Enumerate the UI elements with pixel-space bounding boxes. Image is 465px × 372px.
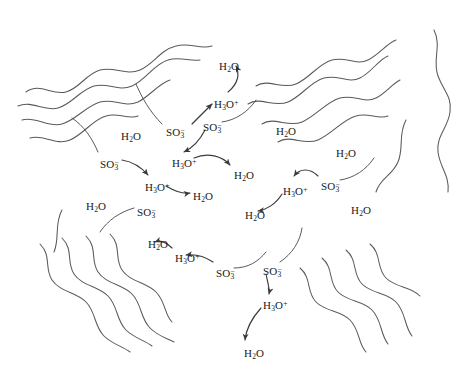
- label-h3o-6: H3O+: [263, 300, 288, 313]
- label-so3-3: SO3−: [100, 159, 119, 172]
- label-h2o-8: H2O: [86, 201, 106, 213]
- label-h2o-9: H2O: [351, 205, 371, 217]
- label-h2o-5: H2O: [234, 170, 254, 182]
- stem-so3-2: [136, 84, 162, 124]
- label-h2o-2: H2O: [121, 131, 141, 143]
- arrow-3: [122, 160, 148, 175]
- chain-right-edge: [434, 30, 450, 192]
- chain-br-1: [300, 268, 366, 352]
- chain-tr-1: [256, 40, 396, 86]
- arrow-6: [294, 170, 318, 176]
- label-h3o-1: H3O+: [214, 99, 239, 112]
- diagram-canvas: H2OH3O+SO3−SO3−H2OH2OH2OSO3−H3O+H2OH3O+H…: [0, 0, 465, 372]
- label-h2o-7: H2O: [245, 210, 265, 222]
- label-h2o-11: H2O: [244, 348, 264, 360]
- chain-br-2: [322, 258, 388, 344]
- polymer-backbone-chains: [18, 30, 450, 352]
- label-h2o-10: H2O: [148, 239, 168, 251]
- diagram-vector-layer: [0, 0, 465, 372]
- stem-so3-7: [280, 228, 302, 262]
- chain-right-lower: [376, 120, 406, 192]
- label-h3o-5: H3O+: [175, 253, 200, 266]
- chain-bl-2: [62, 238, 152, 346]
- label-h3o-4: H3O+: [283, 186, 308, 199]
- label-h3o-3: H3O+: [145, 182, 170, 195]
- arrow-5: [194, 155, 230, 165]
- label-so3-2: SO3−: [166, 127, 185, 140]
- label-h2o-4: H2O: [336, 148, 356, 160]
- chain-tl-3: [22, 80, 170, 125]
- chain-tr-2: [248, 56, 388, 104]
- label-so3-1: SO3−: [203, 122, 222, 135]
- label-h2o-1: H2O: [219, 61, 239, 73]
- chain-left-lower: [54, 210, 62, 252]
- label-so3-7: SO3−: [263, 266, 282, 279]
- label-h3o-2: H3O+: [172, 158, 197, 171]
- stem-so3-4: [340, 158, 374, 180]
- arrow-2: [184, 130, 205, 152]
- label-so3-6: SO3−: [216, 268, 235, 281]
- chain-bl-1: [40, 244, 130, 352]
- stem-so3-3: [72, 118, 98, 152]
- label-h2o-6: H2O: [193, 191, 213, 203]
- stem-so3-6: [234, 252, 266, 268]
- chain-br-4: [370, 244, 420, 296]
- chain-bl-3: [86, 236, 174, 342]
- label-so3-5: SO3−: [137, 207, 156, 220]
- label-h2o-3: H2O: [276, 126, 296, 138]
- arrow-11: [245, 308, 261, 340]
- label-so3-4: SO3−: [321, 181, 340, 194]
- chain-tl-1: [26, 45, 212, 93]
